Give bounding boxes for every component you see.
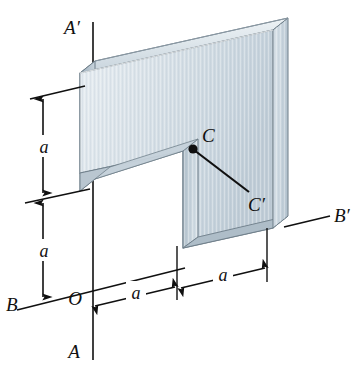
dim-label-horizontal-right: a [219,265,228,285]
label-axis-a-top: A′ [62,17,81,38]
dim-label-horizontal-right-group: a [213,263,233,285]
label-origin-o: O [68,288,82,309]
label-axis-b-right: B′ [334,205,351,226]
axis-b-line-right [284,216,330,227]
ext-line-top [30,86,85,99]
centroid-point-c [188,144,197,153]
label-centroid-c: C [202,125,215,146]
plate-right-end-texture [273,18,288,228]
label-centroid-c-prime: C′ [248,194,266,215]
label-axis-a-bottom: A [66,341,80,362]
plate-diagram-svg: A′ A B B′ O C C′ a a a a [0,0,356,381]
figure-canvas: A′ A B B′ O C C′ a a a a [0,0,356,381]
dimension-vertical-lower [25,189,90,297]
dim-label-vertical-lower: a [40,241,49,261]
dim-label-vertical-lower-group: a [35,239,53,261]
dim-label-horizontal-left: a [132,283,141,303]
dim-label-horizontal-left-group: a [126,281,146,303]
ext-line-mid [25,189,90,203]
plate-notch-inner-texture [183,139,198,248]
label-axis-b-left: B [6,294,18,315]
dim-label-vertical-upper: a [40,137,49,157]
dim-label-vertical-upper-group: a [35,135,53,157]
